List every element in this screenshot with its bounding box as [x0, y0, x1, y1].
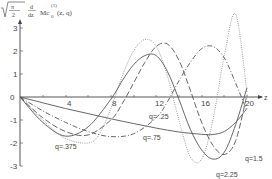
svg-text:0: 0	[51, 14, 54, 19]
curve-q-25	[20, 97, 247, 135]
y-axis-arrow-icon	[18, 19, 22, 24]
svg-text:0: 0	[10, 93, 15, 102]
svg-text:π: π	[11, 4, 14, 10]
svg-text:20: 20	[245, 99, 254, 108]
x-axis-label: z	[264, 94, 268, 101]
svg-text:2: 2	[12, 12, 15, 18]
svg-text:1: 1	[13, 70, 18, 79]
svg-text:8: 8	[112, 99, 117, 108]
svg-text:d: d	[30, 4, 33, 10]
svg-text:12: 12	[155, 99, 164, 108]
svg-text:-3: -3	[10, 162, 18, 171]
label-q075: q=.75	[143, 134, 161, 142]
svg-text:dz: dz	[28, 12, 34, 18]
svg-text:(1): (1)	[51, 3, 57, 8]
label-q0375: q=.375	[55, 143, 77, 151]
svg-text:3: 3	[13, 24, 18, 33]
svg-text:-2: -2	[10, 139, 18, 148]
y-axis-label: π 2 d dz Mc 0 (1) (z, q)	[1, 2, 72, 19]
curve-q-1-5	[20, 43, 247, 155]
svg-text:-1: -1	[10, 116, 18, 125]
svg-text:Mc: Mc	[40, 9, 49, 17]
curves	[20, 13, 247, 162]
curve-labels: q= .25 q=.375 q=.75 q=1.5 q=2.25	[55, 113, 263, 179]
label-q225: q=2.25	[216, 171, 238, 179]
curve-q-375	[20, 13, 247, 162]
x-axis-arrow-icon	[258, 95, 263, 99]
svg-text:4: 4	[67, 99, 72, 108]
chart: π 2 d dz Mc 0 (1) (z, q) z 3 2 1 0 -1 -2…	[0, 0, 272, 179]
svg-text:2: 2	[13, 47, 18, 56]
svg-text:16: 16	[201, 99, 210, 108]
svg-text:(z, q): (z, q)	[57, 9, 72, 17]
label-q025: q= .25	[149, 113, 169, 121]
label-q15: q=1.5	[245, 155, 263, 163]
